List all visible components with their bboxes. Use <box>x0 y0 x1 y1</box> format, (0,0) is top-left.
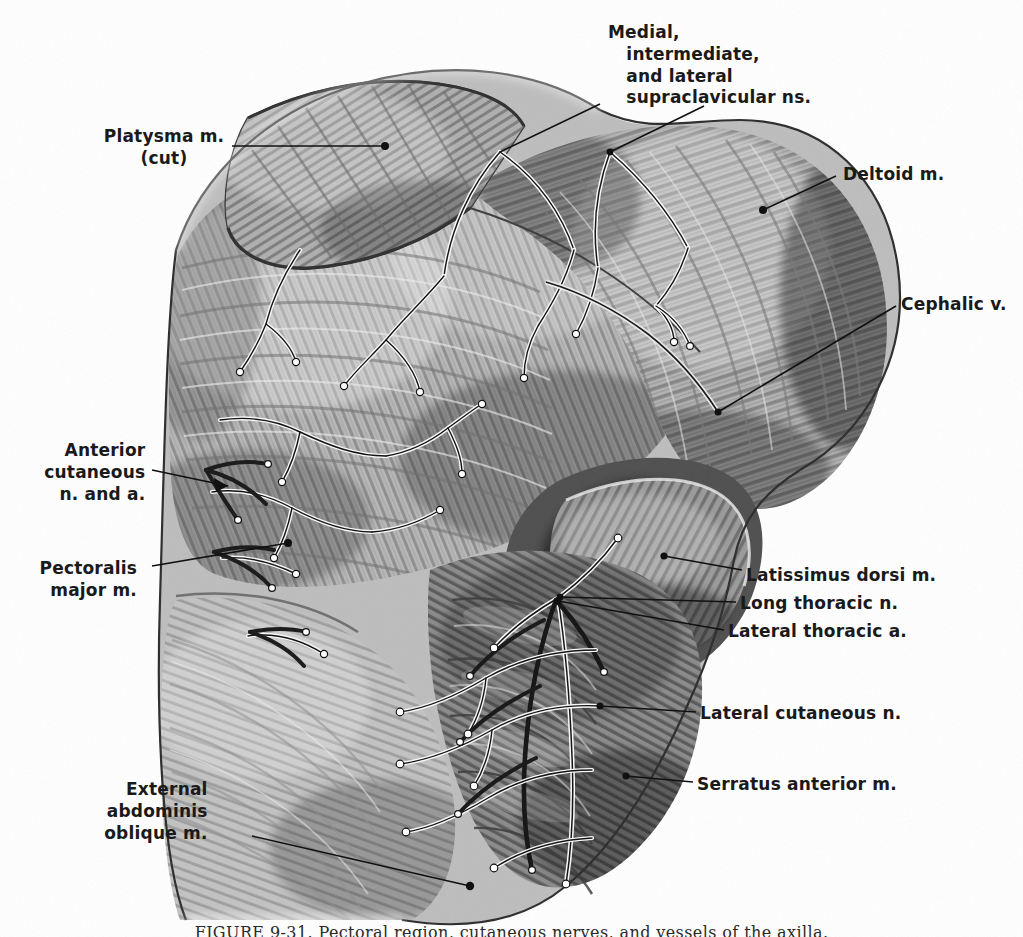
anatomical-plate: Medial, intermediate, and lateral suprac… <box>0 0 1023 937</box>
label-deltoid: Deltoid m. <box>843 164 944 186</box>
figure-caption: FIGURE 9-31. Pectoral region, cutaneous … <box>0 923 1023 937</box>
label-external-abdominis-oblique: External abdominis oblique m. <box>92 779 208 844</box>
label-anterior-cutaneous: Anterior cutaneous n. and a. <box>32 440 145 505</box>
label-lateral-cutaneous-n: Lateral cutaneous n. <box>700 703 901 725</box>
label-pectoralis-major: Pectoralis major m. <box>38 558 137 602</box>
label-platysma: Platysma m. (cut) <box>96 126 232 170</box>
label-latissimus-dorsi: Latissimus dorsi m. <box>746 565 936 587</box>
label-long-thoracic-n: Long thoracic n. <box>740 593 898 615</box>
label-supraclavicular-ns: Medial, intermediate, and lateral suprac… <box>608 22 811 109</box>
label-lateral-thoracic-a: Lateral thoracic a. <box>728 621 907 643</box>
label-cephalic-v: Cephalic v. <box>901 294 1007 316</box>
label-serratus-anterior: Serratus anterior m. <box>697 774 897 796</box>
